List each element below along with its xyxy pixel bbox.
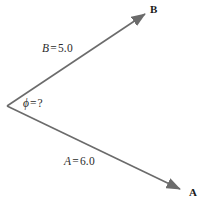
angle-value: ? <box>37 97 42 109</box>
vector-b-value: 5.0 <box>58 42 73 54</box>
vector-b-magnitude-label: B=5.0 <box>42 42 73 54</box>
vector-b-equals: = <box>49 42 58 54</box>
vector-b-name-label: B <box>150 3 157 15</box>
vector-diagram: B=5.0 A=6.0 ϕ=? B A <box>0 0 205 207</box>
angle-label: ϕ=? <box>23 97 43 109</box>
vector-a-value: 6.0 <box>80 155 95 167</box>
vector-b-arrow <box>7 14 145 106</box>
vector-a-magnitude-label: A=6.0 <box>64 155 95 167</box>
vector-a-arrow <box>7 106 180 189</box>
vector-a-equals: = <box>71 155 80 167</box>
vector-a-name-label: A <box>189 186 197 198</box>
